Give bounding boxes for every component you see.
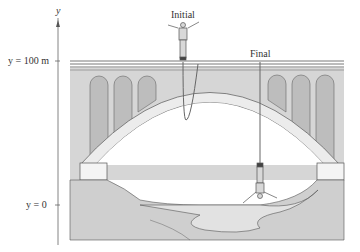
y-axis	[55, 18, 60, 245]
bungee-jump-diagram	[0, 0, 360, 252]
y-top-label: y = 100 m	[8, 56, 49, 66]
ground	[70, 180, 344, 240]
bridge	[70, 61, 344, 180]
axis-name-label: y	[56, 6, 60, 16]
initial-label: Initial	[171, 10, 195, 20]
y-bottom-label: y = 0	[26, 200, 47, 210]
final-label: Final	[250, 49, 271, 59]
jumper-initial	[168, 22, 199, 60]
